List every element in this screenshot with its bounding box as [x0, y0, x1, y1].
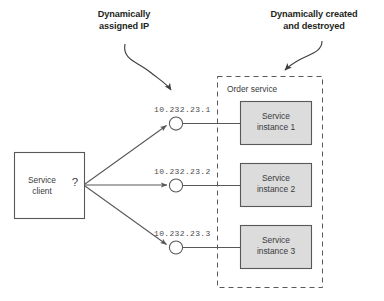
service-instance-box-3 — [241, 226, 313, 270]
service-discovery-diagram: Dynamically assigned IP Dynamically crea… — [0, 0, 384, 301]
ip-address-label-1: 10.232.23.1 — [154, 105, 211, 114]
annotation-label-dynamic-lifecycle: Dynamically created and destroyed — [252, 9, 376, 32]
diagram-canvas — [0, 0, 384, 301]
service-instance-box-1 — [241, 102, 313, 146]
endpoint-circle-3 — [169, 241, 182, 254]
annotation-label-dynamic-ip: Dynamically assigned IP — [76, 9, 172, 32]
ip-address-label-2: 10.232.23.2 — [154, 167, 211, 176]
annotation-arrow-dynamic-ip — [125, 44, 171, 90]
annotation-arrow-dynamic-lifecycle — [285, 41, 322, 70]
ip-address-label-3: 10.232.23.3 — [154, 229, 211, 238]
endpoint-circle-1 — [169, 117, 182, 130]
service-client-question-mark: ? — [68, 176, 82, 188]
order-service-group-label: Order service — [227, 84, 277, 94]
endpoint-circle-2 — [169, 179, 182, 192]
service-instance-box-2 — [241, 164, 313, 208]
